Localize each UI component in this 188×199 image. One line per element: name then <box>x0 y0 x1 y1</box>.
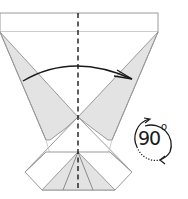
top-band <box>0 13 158 32</box>
origami-diagram <box>0 0 188 199</box>
rotation-degree-mark: o <box>161 121 167 132</box>
rotation-value: 90 <box>138 127 160 149</box>
